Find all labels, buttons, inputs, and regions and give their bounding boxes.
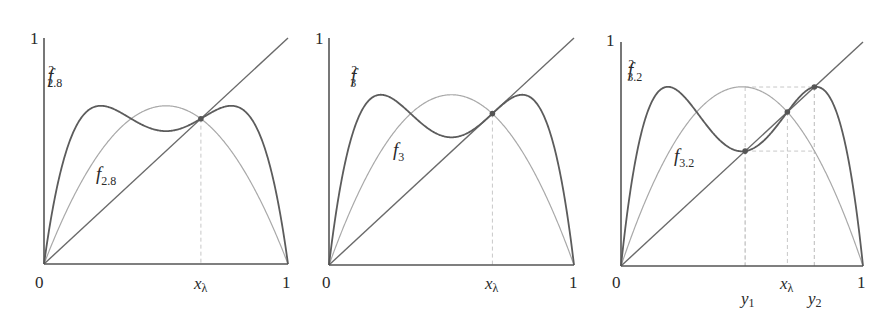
panel3-identity-line xyxy=(621,42,863,266)
panel2-origin-label: 0 xyxy=(322,274,331,291)
panel2-point-0 xyxy=(490,111,496,117)
panel2-f-label: f3 xyxy=(393,140,404,159)
panel3-x-tick-1: 1 xyxy=(857,274,866,291)
panel3-point-0 xyxy=(742,148,748,154)
panel3-f-label: f3.2 xyxy=(674,146,694,165)
panel3-f-curve xyxy=(621,87,863,266)
panel1-identity-line xyxy=(44,38,288,264)
panel1-xlambda-label: xλ xyxy=(194,275,207,292)
panel1-x-tick-1: 1 xyxy=(282,274,291,291)
panel1-f2-curve xyxy=(44,106,288,264)
panel3-point-2 xyxy=(812,84,818,90)
panel2-f-curve xyxy=(329,95,574,265)
panel2-f2-curve xyxy=(329,95,574,265)
panel1-f-curve xyxy=(44,106,288,264)
panel3-origin-label: 0 xyxy=(612,274,621,291)
panel2-f2-label: f23 xyxy=(351,66,356,85)
panel3-y-tick-1: 1 xyxy=(606,32,615,49)
panel3-point-1 xyxy=(785,109,791,115)
panel1-f-label: f2.8 xyxy=(96,164,116,183)
chart-canvas xyxy=(0,0,884,325)
panel1-f2-label: f22.8 xyxy=(48,66,62,85)
panel1-point-0 xyxy=(198,116,204,122)
panel2-identity-line xyxy=(329,38,574,265)
panel3-f2-curve xyxy=(621,87,863,266)
panel2-x-tick-1: 1 xyxy=(569,274,578,291)
panel3-xlambda-label: xλ xyxy=(780,275,793,292)
panel1-y-tick-1: 1 xyxy=(30,30,39,47)
panel3-y1-label: y1 xyxy=(741,290,755,307)
panel2-y-tick-1: 1 xyxy=(315,30,324,47)
panel2-xlambda-label: xλ xyxy=(485,275,498,292)
panel3-y2-label: y2 xyxy=(808,290,822,307)
panel3-f2-label: f23.2 xyxy=(628,60,642,79)
panel1-origin-label: 0 xyxy=(35,274,44,291)
